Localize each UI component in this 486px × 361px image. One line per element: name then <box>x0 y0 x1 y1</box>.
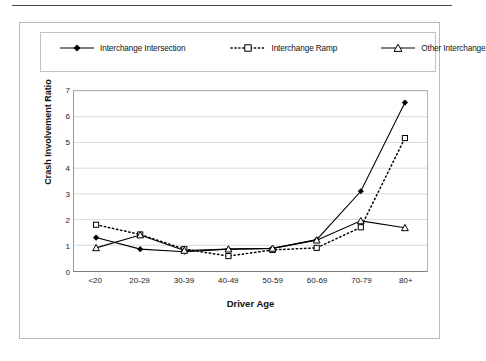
series-interchange-ramp <box>93 135 407 258</box>
open-triangle-solid-key-icon <box>379 42 417 54</box>
open-square-marker <box>358 225 363 230</box>
y-axis-tick-label: 2 <box>52 216 70 225</box>
x-axis-tick-label: 30-39 <box>161 276 207 285</box>
legend-label: Interchange Intersection <box>100 44 185 53</box>
open-square-marker <box>93 222 98 227</box>
filled-diamond-solid-key-icon <box>58 42 96 54</box>
x-axis-tick-label: <20 <box>72 276 118 285</box>
legend-label: Other Interchange <box>421 44 485 53</box>
open-square-marker <box>314 245 319 250</box>
x-axis-tick-label: 80+ <box>383 276 429 285</box>
open-square-dotted-key-icon <box>229 42 267 54</box>
y-axis-tick-label: 1 <box>52 242 70 251</box>
series-line <box>96 138 405 256</box>
legend-item-other-interchange[interactable]: Other Interchange <box>379 40 485 56</box>
x-axis-tick-labels: <2020-2930-3940-4950-5960-6970-7980+ <box>73 276 428 290</box>
legend-item-interchange-intersection[interactable]: Interchange Intersection <box>58 40 185 56</box>
chart-legend: Interchange Intersection Interchange Ram… <box>40 32 436 72</box>
x-axis-tick-label: 60-69 <box>294 276 340 285</box>
top-divider-rule <box>12 5 452 6</box>
x-axis-tick-label: 70-79 <box>338 276 384 285</box>
y-axis-tick-label: 7 <box>52 86 70 95</box>
x-axis-tick-label: 50-59 <box>250 276 296 285</box>
y-axis-tick-label: 5 <box>52 138 70 147</box>
open-triangle-marker <box>357 217 364 223</box>
y-axis-tick-label: 4 <box>52 164 70 173</box>
y-axis-tick-label: 3 <box>52 190 70 199</box>
y-axis-tick-label: 0 <box>52 268 70 277</box>
chart-plot-svg <box>74 91 427 271</box>
filled-diamond-marker <box>137 246 143 252</box>
filled-diamond-marker <box>402 100 408 106</box>
x-axis-tick-label: 40-49 <box>205 276 251 285</box>
open-square-marker <box>226 254 231 259</box>
filled-diamond-marker <box>93 235 99 241</box>
open-square-marker <box>402 135 407 140</box>
x-axis-title: Driver Age <box>73 298 428 309</box>
y-axis-tick-labels: 01234567 <box>48 90 70 272</box>
x-axis-tick-label: 20-29 <box>117 276 163 285</box>
legend-row: Interchange Intersection Interchange Ram… <box>41 40 435 56</box>
legend-label: Interchange Ramp <box>271 44 337 53</box>
y-axis-tick-label: 6 <box>52 112 70 121</box>
plot-area <box>73 90 428 272</box>
legend-item-interchange-ramp[interactable]: Interchange Ramp <box>229 40 337 56</box>
